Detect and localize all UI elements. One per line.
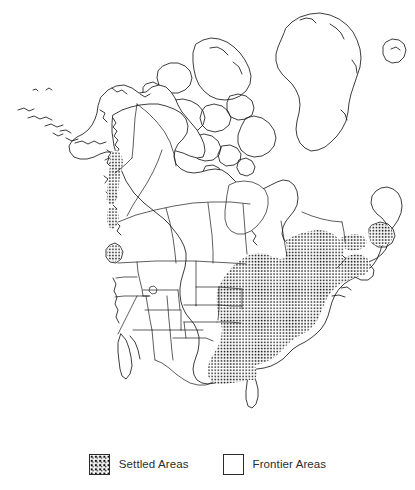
map-legend: Settled Areas Frontier Areas (0, 432, 415, 490)
stipple-swatch-icon (89, 454, 110, 475)
legend-label-settled: Settled Areas (119, 458, 189, 471)
legend-label-frontier: Frontier Areas (253, 458, 327, 471)
empty-swatch-icon (223, 454, 244, 475)
north-america-map (0, 0, 415, 432)
legend-item-frontier: Frontier Areas (223, 454, 327, 475)
frontier-settlement-map-figure: Settled Areas Frontier Areas (0, 0, 415, 490)
map-canvas (0, 0, 415, 432)
greenland (276, 13, 361, 151)
legend-item-settled: Settled Areas (89, 454, 189, 475)
iceland-fragment (383, 39, 406, 63)
